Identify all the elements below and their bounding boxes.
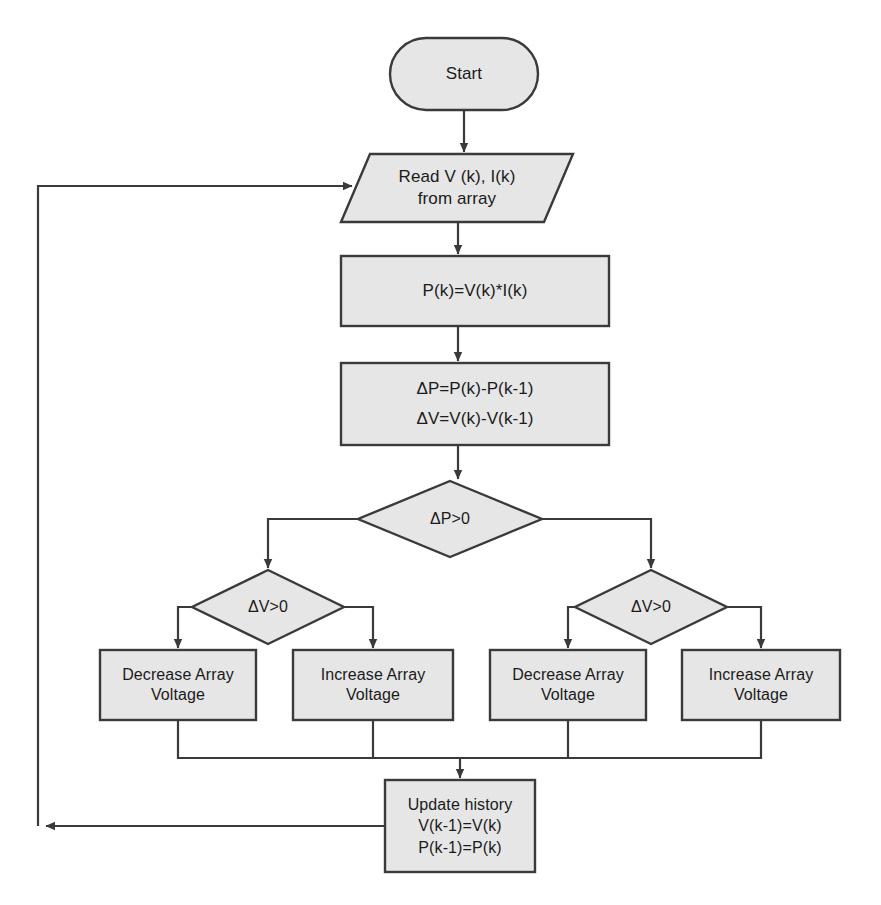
connector-dv-right-to-increase [727, 607, 761, 648]
flowchart-canvas: Start Read V (k), I(k) from array P(k)=V… [0, 0, 881, 905]
connector-feedback-riser [38, 186, 352, 826]
node-increase-left [293, 650, 453, 720]
node-decrease-left [100, 650, 256, 720]
shapes-layer [100, 38, 840, 872]
node-update-history [385, 780, 535, 872]
node-power [341, 256, 609, 326]
connector-dv-left-to-increase [344, 607, 373, 648]
connector-increase-right-to-merge [460, 720, 761, 758]
node-dv-right-decision [575, 570, 727, 644]
flowchart-svg [0, 0, 881, 905]
connector-dv-left-to-decrease [178, 607, 192, 648]
node-deltas [341, 363, 609, 445]
node-read [341, 154, 573, 222]
node-dv-left-decision [192, 570, 344, 644]
node-dp-decision [358, 481, 542, 557]
connector-dp-to-dv-left [268, 519, 358, 568]
node-decrease-right [490, 650, 646, 720]
connector-decrease-left-to-merge [178, 720, 460, 758]
node-start [390, 38, 538, 110]
connector-dv-right-to-decrease [568, 607, 575, 648]
connector-dp-to-dv-right [542, 519, 651, 568]
node-increase-right [682, 650, 840, 720]
